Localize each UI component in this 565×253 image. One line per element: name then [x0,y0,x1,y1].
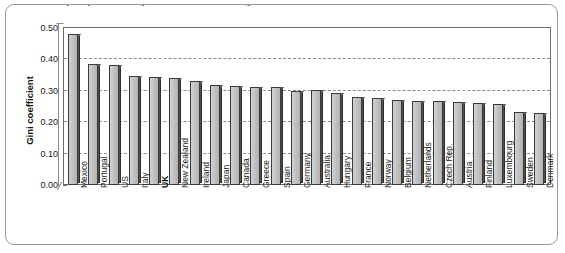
x-tick-label: Luxembourg [503,141,515,188]
x-tick-label: Canada [240,158,252,188]
x-tick-label: New Zealand [179,138,191,188]
y-tick-label: 0.40 [40,54,58,64]
y-tick-label: 0.00 [40,180,58,190]
y-axis-title: Gini coefficient [24,36,35,186]
x-tick-label: Spain [281,166,293,188]
x-tick-label: Czech Rep. [443,144,455,188]
bar-front-face [433,101,443,185]
x-tick-label: Netherlands [422,142,434,188]
bar-front-face [190,81,200,185]
x-tick-label: Ireland [200,162,212,188]
x-tick-label: Denmark [544,154,556,188]
x-tick-label: Germany [301,153,313,188]
x-tick-label: Finland [483,160,495,188]
x-tick-label: US [119,176,131,188]
bar-front-face [169,78,179,185]
x-tick-label: Japan [220,165,232,188]
bar-front-face [68,34,78,185]
x-tick-label: Mexico [78,161,90,188]
x-axis-labels: MexicoPortugalUSItalyUKNew ZealandIrelan… [64,188,550,245]
x-tick-label: Belgium [402,157,414,188]
bar-front-face [514,112,524,185]
y-axis: 0.000.100.200.300.400.50 [6,5,63,207]
x-tick-label: Sweden [524,157,536,188]
bar-front-face [109,65,119,185]
x-tick-label: Portugal [98,156,110,188]
figure-caption: Income inequality is on average above th… [18,4,438,6]
y-tick-label: 0.50 [40,23,58,33]
bar[interactable] [109,65,121,185]
x-tick-label: France [362,162,374,188]
x-tick-label: Italy [139,172,151,188]
bar-front-face [149,77,159,185]
x-tick-label: Norway [382,159,394,188]
y-tick-label: 0.20 [40,117,58,127]
y-tick-label: 0.30 [40,86,58,96]
bar[interactable] [129,76,141,185]
bar[interactable] [149,77,161,185]
y-tick-label: 0.10 [40,149,58,159]
x-tick-label: Hungary [341,156,353,188]
x-tick-label: UK [159,176,171,188]
bar-front-face [352,97,362,185]
x-tick-label: Austria [463,162,475,188]
x-tick-label: Australia [321,155,333,188]
bar-front-face [129,76,139,185]
figure-frame: Income inequality is on average above th… [5,4,558,245]
bar-front-face [271,87,281,185]
x-tick-label: Greece [260,160,272,188]
